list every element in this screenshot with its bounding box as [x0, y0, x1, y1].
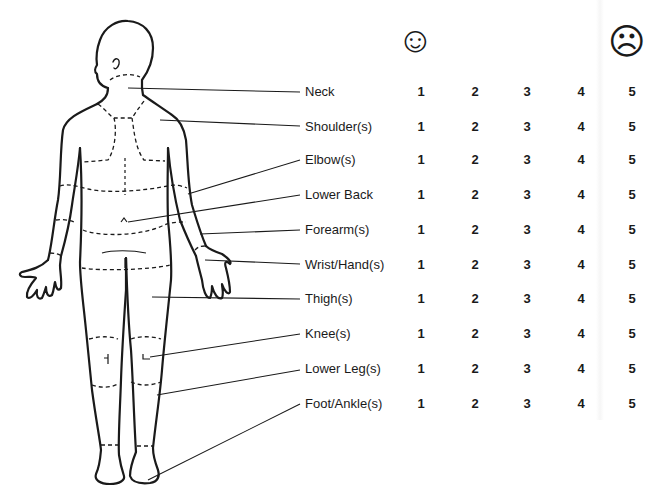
rating-wrist-hands-3[interactable]: 3	[520, 257, 534, 273]
rating-thighs-3[interactable]: 3	[520, 291, 534, 307]
rating-thighs-2[interactable]: 2	[468, 291, 482, 307]
rating-lower-legs-3[interactable]: 3	[520, 361, 534, 377]
rating-foot-ankles-4[interactable]: 4	[574, 396, 588, 412]
rating-elbows-2[interactable]: 2	[468, 152, 482, 168]
region-label-foot-ankles: Foot/Ankle(s)	[305, 396, 382, 412]
rating-shoulders-2[interactable]: 2	[468, 119, 482, 135]
rating-wrist-hands-5[interactable]: 5	[625, 257, 639, 273]
rating-forearms-1[interactable]: 1	[414, 222, 428, 238]
rating-shoulders-1[interactable]: 1	[414, 119, 428, 135]
rating-knees-3[interactable]: 3	[520, 326, 534, 342]
rating-shoulders-5[interactable]: 5	[625, 119, 639, 135]
region-label-lower-legs: Lower Leg(s)	[305, 361, 381, 377]
region-label-shoulders: Shoulder(s)	[305, 119, 372, 135]
rating-foot-ankles-1[interactable]: 1	[414, 396, 428, 412]
region-label-lower-back: Lower Back	[305, 187, 373, 203]
leader-line-foot-ankle	[148, 404, 300, 480]
leader-line-elbow	[188, 160, 300, 194]
rating-knees-4[interactable]: 4	[574, 326, 588, 342]
rating-elbows-3[interactable]: 3	[520, 152, 534, 168]
rating-thighs-5[interactable]: 5	[625, 291, 639, 307]
rating-forearms-2[interactable]: 2	[468, 222, 482, 238]
leader-line-forearm	[200, 230, 300, 234]
region-label-thighs: Thigh(s)	[305, 291, 353, 307]
region-label-elbows: Elbow(s)	[305, 152, 356, 168]
smiley-face-icon: ☺	[397, 22, 434, 58]
rating-wrist-hands-4[interactable]: 4	[574, 257, 588, 273]
rating-neck-4[interactable]: 4	[574, 84, 588, 100]
rating-elbows-1[interactable]: 1	[414, 152, 428, 168]
leader-line-lower-leg	[157, 370, 300, 395]
rating-neck-2[interactable]: 2	[468, 84, 482, 100]
rating-lower-back-3[interactable]: 3	[520, 187, 534, 203]
rating-lower-back-2[interactable]: 2	[468, 187, 482, 203]
rating-wrist-hands-1[interactable]: 1	[414, 257, 428, 273]
rating-foot-ankles-2[interactable]: 2	[468, 396, 482, 412]
rating-lower-legs-1[interactable]: 1	[414, 361, 428, 377]
region-label-neck: Neck	[305, 84, 335, 100]
rating-shoulders-4[interactable]: 4	[574, 119, 588, 135]
rating-neck-3[interactable]: 3	[520, 84, 534, 100]
rating-forearms-3[interactable]: 3	[520, 222, 534, 238]
rating-foot-ankles-5[interactable]: 5	[625, 396, 639, 412]
leader-lines	[128, 88, 300, 480]
rating-knees-2[interactable]: 2	[468, 326, 482, 342]
leader-line-neck	[128, 88, 300, 92]
leader-line-thigh	[152, 297, 300, 299]
rating-forearms-5[interactable]: 5	[625, 222, 639, 238]
region-label-forearms: Forearm(s)	[305, 222, 369, 238]
rating-lower-legs-4[interactable]: 4	[574, 361, 588, 377]
rating-lower-legs-2[interactable]: 2	[468, 361, 482, 377]
leader-line-lower-back	[128, 195, 300, 222]
rating-knees-5[interactable]: 5	[625, 326, 639, 342]
body-diagram	[0, 0, 659, 499]
rating-lower-back-5[interactable]: 5	[625, 187, 639, 203]
frowning-face-icon: ☹	[608, 24, 646, 60]
rating-wrist-hands-2[interactable]: 2	[468, 257, 482, 273]
region-label-wrist-hands: Wrist/Hand(s)	[305, 257, 384, 273]
leader-line-wrist-hand	[205, 260, 300, 264]
rating-thighs-1[interactable]: 1	[414, 291, 428, 307]
rating-thighs-4[interactable]: 4	[574, 291, 588, 307]
region-label-knees: Knee(s)	[305, 326, 351, 342]
rating-shoulders-3[interactable]: 3	[520, 119, 534, 135]
rating-lower-back-4[interactable]: 4	[574, 187, 588, 203]
rating-lower-back-1[interactable]: 1	[414, 187, 428, 203]
rating-lower-legs-5[interactable]: 5	[625, 361, 639, 377]
rating-forearms-4[interactable]: 4	[574, 222, 588, 238]
rating-neck-1[interactable]: 1	[414, 84, 428, 100]
rating-elbows-5[interactable]: 5	[625, 152, 639, 168]
rating-elbows-4[interactable]: 4	[574, 152, 588, 168]
rating-foot-ankles-3[interactable]: 3	[520, 396, 534, 412]
rating-neck-5[interactable]: 5	[625, 84, 639, 100]
leader-line-knee	[150, 334, 300, 357]
rating-knees-1[interactable]: 1	[414, 326, 428, 342]
